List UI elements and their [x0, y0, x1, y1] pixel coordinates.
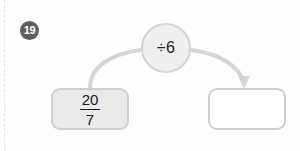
operator-to-output-curve [192, 50, 244, 84]
fraction-denominator: 7 [80, 111, 101, 127]
answer-box[interactable] [208, 88, 286, 130]
fraction-20-over-7: 20 7 [80, 92, 101, 127]
fraction-bar [80, 109, 101, 110]
input-to-operator-curve [90, 50, 140, 88]
operator-circle: ÷6 [141, 23, 191, 73]
input-value-box: 20 7 [51, 88, 129, 130]
divide-icon: ÷6 [157, 39, 176, 57]
worksheet-problem-canvas: 19 ÷6 20 7 [0, 0, 300, 151]
fraction-numerator: 20 [80, 92, 101, 108]
